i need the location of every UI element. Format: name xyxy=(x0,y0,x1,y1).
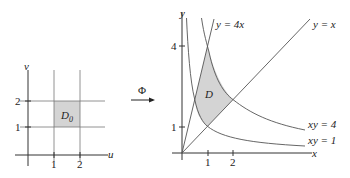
y-tick-1: 1 xyxy=(171,121,177,133)
v-tick-2: 2 xyxy=(15,95,21,107)
label-y-eq-x: y = x xyxy=(312,18,336,30)
map-arrow-label: Φ xyxy=(138,84,146,96)
diagram-canvas: v u 2 1 1 2 D0 Φ y x 4 1 xyxy=(0,0,350,178)
label-xy-eq-4: xy = 4 xyxy=(307,118,337,130)
label-y-eq-4x: y = 4x xyxy=(215,18,244,30)
x-tick-1: 1 xyxy=(205,156,211,168)
x-axis-label: x xyxy=(311,147,317,159)
right-plot: y x 4 1 1 2 y = 4x y = x xy = 4 xy = 1 D xyxy=(171,7,337,168)
region-d-label: D xyxy=(204,88,213,100)
v-axis-label: v xyxy=(24,60,29,72)
v-tick-1: 1 xyxy=(15,121,21,133)
label-xy-eq-1: xy = 1 xyxy=(307,134,336,146)
u-tick-1: 1 xyxy=(51,158,57,170)
x-tick-2: 2 xyxy=(230,156,236,168)
u-tick-2: 2 xyxy=(77,158,83,170)
left-plot: v u 2 1 1 2 D0 xyxy=(15,60,114,170)
region-d xyxy=(195,46,233,126)
y-axis-label: y xyxy=(179,7,185,19)
u-axis-label: u xyxy=(108,148,114,160)
y-tick-4: 4 xyxy=(171,40,177,52)
map-arrow: Φ xyxy=(131,84,155,103)
